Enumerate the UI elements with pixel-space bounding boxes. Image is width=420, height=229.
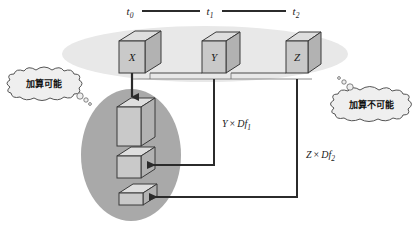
top-cube-x[interactable]: X — [119, 31, 161, 73]
bubble-addable-tail-dot-3 — [89, 103, 92, 106]
stack-cube-1-front-face — [117, 107, 141, 146]
top-cube-z[interactable]: Z — [286, 32, 321, 73]
diagram-canvas: t0 t1 t2 X Y — [0, 0, 420, 229]
bubble-addable-text: 加算可能 — [25, 78, 62, 89]
bubble-not-addable-text: 加算不可能 — [348, 99, 394, 110]
stack-cube-3-front-face — [119, 193, 143, 205]
bubble-addable-tail-dot-1 — [77, 93, 83, 99]
bubble-not-addable-tail-dot-1 — [347, 84, 353, 90]
stack-cube-1[interactable] — [117, 98, 155, 146]
top-cube-y[interactable]: Y — [202, 32, 240, 73]
bubble-not-addable-tail-dot-3 — [338, 77, 341, 80]
bubble-not-addable-tail-dot-2 — [342, 80, 346, 84]
diagram-svg: t0 t1 t2 X Y — [0, 0, 420, 229]
cube-z-label: Z — [294, 51, 301, 63]
stack-cube-1-side-face — [141, 98, 155, 146]
bubble-addable-tail-dot-2 — [84, 98, 88, 102]
stack-cube-2-front-face — [117, 156, 141, 178]
cube-x-label: X — [128, 51, 137, 63]
